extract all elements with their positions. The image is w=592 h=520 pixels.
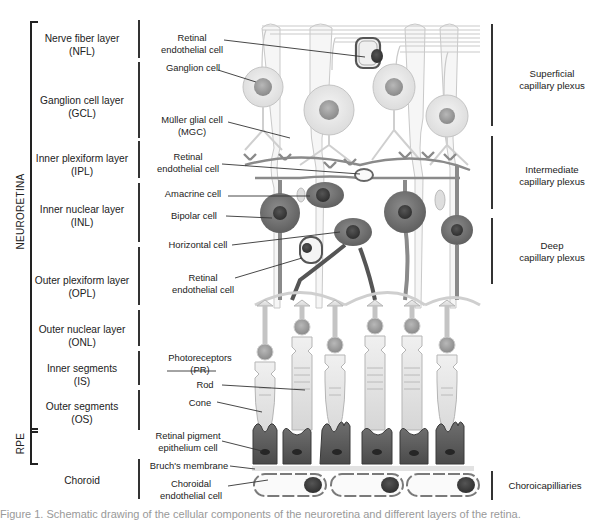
choroicapillaries (254, 474, 479, 496)
divider-opl (138, 247, 140, 305)
deep-capillary (300, 237, 322, 263)
divider-inl (138, 183, 140, 242)
divider-intermediate (491, 136, 493, 209)
layer-label-inl: Inner nuclear layer (INL) (30, 203, 134, 229)
label-retinal-endothelial-3: Retinal endothelial cell (163, 272, 243, 296)
divider-os (138, 390, 140, 430)
label-rpe-cell: Retinal pigment epithelium cell (148, 430, 228, 454)
layer-label-gcl: Ganglion cell layer (GCL) (30, 94, 134, 120)
label-deep-plexus: Deep capillary plexus (512, 240, 592, 264)
rpe-label: RPE (15, 425, 26, 463)
neuroretina-label: NEURORETINA (15, 172, 26, 252)
label-amacrine-cell: Amacrine cell (158, 188, 228, 200)
divider-choroicapillaries (491, 471, 493, 500)
label-ganglion-cell: Ganglion cell (158, 62, 228, 74)
layer-label-nfl: Nerve fiber layer (NFL) (30, 32, 134, 58)
divider-gcl (138, 62, 140, 138)
label-choroidal-endothelial-cell: Choroidal endothelial cell (155, 478, 227, 502)
label-choroicapillaries: Choroicapilliaries (498, 480, 592, 492)
divider-ipl (138, 141, 140, 178)
intermediate-capillary (355, 169, 373, 181)
amacrine-cell (306, 182, 344, 208)
layer-label-is: Inner segments (IS) (30, 362, 134, 388)
layer-label-ipl: Inner plexiform layer (IPL) (30, 152, 134, 178)
divider-superficial (491, 24, 493, 126)
label-retinal-endothelial-2: Retinal endothelial cell (148, 151, 228, 175)
label-intermediate-plexus: Intermediate capillary plexus (512, 164, 592, 188)
rod (365, 300, 385, 430)
muller-nucleus (297, 188, 305, 202)
muller-nucleus (435, 190, 445, 210)
label-bipolar-cell: Bipolar cell (164, 210, 224, 222)
cone (325, 300, 345, 443)
label-bruchs-membrane: Bruch's membrane (148, 460, 230, 472)
layer-label-opl: Outer plexiform layer (OPL) (30, 274, 134, 300)
divider-choroid (138, 459, 140, 499)
rpe-bracket (30, 428, 38, 465)
photoreceptors (255, 300, 457, 444)
cone (437, 300, 457, 443)
label-superficial-plexus: Superficial capillary plexus (512, 68, 592, 92)
label-horizontal-cell: Horizontal cell (162, 239, 234, 251)
figure-caption: Figure 1. Schematic drawing of the cellu… (0, 508, 592, 520)
divider-deep (491, 218, 493, 284)
superficial-capillary (356, 38, 383, 68)
label-retinal-endothelial-1: Retinal endothelial cell (152, 32, 232, 56)
divider-onl (138, 310, 140, 346)
label-rod: Rod (185, 379, 225, 391)
rod (402, 300, 422, 430)
cone (255, 300, 275, 444)
bruchs-membrane (252, 466, 474, 471)
rod (292, 300, 312, 430)
label-muller-glial-cell: Müller glial cell (MGC) (152, 114, 232, 138)
segment-disks (259, 368, 453, 395)
divider-nfl (138, 20, 140, 58)
rpe-layer (253, 422, 464, 464)
divider-is (138, 351, 140, 385)
layer-label-choroid: Choroid (30, 474, 134, 487)
layer-label-os: Outer segments (OS) (30, 400, 134, 426)
label-cone: Cone (182, 397, 218, 409)
label-photoreceptors: Photoreceptors (PR) (162, 352, 238, 376)
layer-label-onl: Outer nuclear layer (ONL) (30, 323, 134, 349)
